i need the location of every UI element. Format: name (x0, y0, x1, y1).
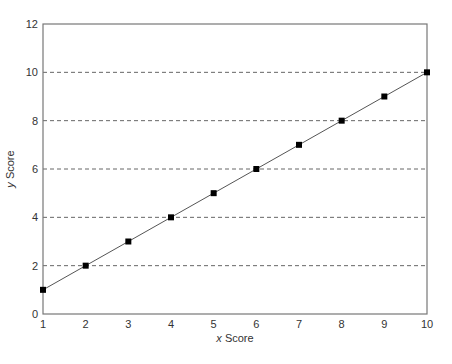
x-tick-label: 6 (253, 318, 259, 330)
x-tick-label: 8 (339, 318, 345, 330)
data-point-marker (125, 239, 131, 245)
x-tick-label: 3 (125, 318, 131, 330)
y-tick-label: 6 (32, 163, 38, 175)
y-axis-label: y Score (4, 150, 16, 188)
data-point-marker (211, 190, 217, 196)
y-axis-ticks: 024681012 (26, 18, 38, 320)
data-point-marker (83, 263, 89, 269)
data-point-marker (296, 142, 302, 148)
x-tick-label: 7 (296, 318, 302, 330)
x-tick-label: 10 (421, 318, 433, 330)
data-point-marker (424, 69, 430, 75)
data-point-marker (253, 166, 259, 172)
x-tick-label: 1 (40, 318, 46, 330)
series-line (43, 72, 427, 290)
y-tick-label: 4 (32, 211, 38, 223)
x-axis-label: x Score (215, 332, 253, 344)
y-tick-label: 10 (26, 66, 38, 78)
y-tick-label: 8 (32, 115, 38, 127)
x-tick-label: 5 (211, 318, 217, 330)
y-tick-label: 12 (26, 18, 38, 30)
x-tick-label: 4 (168, 318, 174, 330)
data-point-marker (168, 214, 174, 220)
y-tick-label: 2 (32, 260, 38, 272)
data-point-marker (40, 287, 46, 293)
line-chart: 024681012 12345678910 x Score y Score (0, 0, 452, 364)
gridlines (43, 72, 427, 265)
y-tick-label: 0 (32, 308, 38, 320)
x-axis-ticks: 12345678910 (40, 318, 433, 330)
data-point-marker (339, 118, 345, 124)
x-tick-label: 9 (381, 318, 387, 330)
data-point-marker (381, 94, 387, 100)
x-tick-label: 2 (83, 318, 89, 330)
